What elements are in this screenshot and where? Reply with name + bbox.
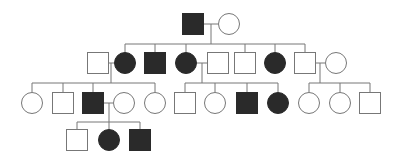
affected-female-circle-icon [268, 93, 289, 114]
pedigree-lines [32, 24, 370, 130]
female-circle-icon [326, 53, 347, 74]
male-square-icon [235, 53, 256, 74]
female-circle-icon [205, 93, 226, 114]
male-square-icon [53, 93, 74, 114]
male-square-icon [67, 130, 88, 151]
affected-male-square-icon [83, 93, 104, 114]
female-circle-icon [299, 93, 320, 114]
female-circle-icon [22, 93, 43, 114]
female-circle-icon [114, 93, 135, 114]
affected-female-circle-icon [115, 53, 136, 74]
female-circle-icon [219, 14, 240, 35]
affected-male-square-icon [237, 93, 258, 114]
affected-male-square-icon [183, 14, 204, 35]
pedigree-chart [0, 0, 398, 166]
affected-female-circle-icon [265, 53, 286, 74]
male-square-icon [208, 53, 229, 74]
affected-male-square-icon [130, 130, 151, 151]
female-circle-icon [145, 93, 166, 114]
affected-male-square-icon [145, 53, 166, 74]
male-square-icon [360, 93, 381, 114]
pedigree-individuals [22, 14, 381, 151]
male-square-icon [175, 93, 196, 114]
affected-female-circle-icon [99, 130, 120, 151]
male-square-icon [295, 53, 316, 74]
affected-female-circle-icon [176, 53, 197, 74]
male-square-icon [88, 53, 109, 74]
female-circle-icon [330, 93, 351, 114]
